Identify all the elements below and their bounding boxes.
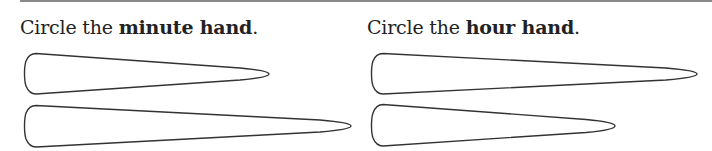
hand-option-short-right[interactable] [372,105,616,147]
clock-hands-figure [0,0,712,151]
hand-option-short-left[interactable] [25,54,270,95]
hand-option-long-left[interactable] [25,106,352,148]
minute-hand-question-options [25,54,352,148]
hand-option-long-right[interactable] [372,54,698,95]
hour-hand-question-options [372,54,698,147]
